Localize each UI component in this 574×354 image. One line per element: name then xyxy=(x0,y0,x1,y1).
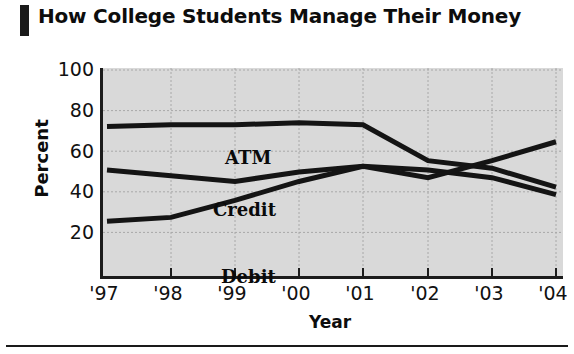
series-line-debit xyxy=(107,142,556,221)
x-tick-label-00: '00 xyxy=(266,282,326,304)
x-tick-label-98: '98 xyxy=(138,282,198,304)
x-tick-label-02: '02 xyxy=(395,282,455,304)
x-tick-label-04: '04 xyxy=(523,282,574,304)
x-tick-label-01: '01 xyxy=(330,282,390,304)
series-line-credit xyxy=(107,166,556,194)
x-tick-label-99: '99 xyxy=(202,282,262,304)
y-tick-label-60: 60 xyxy=(48,142,94,161)
x-tick-label-97: '97 xyxy=(74,282,134,304)
series-label-credit: Credit xyxy=(213,199,276,220)
x-axis-tick-labels: '97 '98 '99 '00 '01 '02 '03 '04 xyxy=(100,282,570,310)
page-title: How College Students Manage Their Money xyxy=(38,4,521,28)
x-axis-title: Year xyxy=(100,312,560,332)
y-tick-label-40: 40 xyxy=(48,182,94,201)
title-bar: How College Students Manage Their Money xyxy=(0,0,574,44)
plot-area: ATM Credit Debit xyxy=(100,68,563,279)
data-series-layer xyxy=(103,68,563,276)
line-chart: 100 80 60 40 20 Percent xyxy=(0,44,574,354)
y-tick-label-100: 100 xyxy=(48,60,94,79)
y-tick-label-80: 80 xyxy=(48,101,94,120)
series-label-atm: ATM xyxy=(225,147,271,168)
x-tick-label-03: '03 xyxy=(459,282,519,304)
y-tick-label-20: 20 xyxy=(48,223,94,242)
y-axis-title: Percent xyxy=(31,104,52,214)
footer-rule xyxy=(6,345,568,347)
title-accent-rule xyxy=(20,5,29,36)
